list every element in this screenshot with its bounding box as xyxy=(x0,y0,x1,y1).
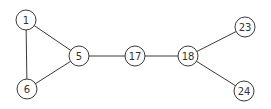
node-label: 6 xyxy=(24,84,30,95)
graph-nodes: 15617182324 xyxy=(16,10,255,101)
node-18: 18 xyxy=(178,46,198,66)
node-17: 17 xyxy=(125,46,145,66)
node-6: 6 xyxy=(17,79,37,99)
node-23: 23 xyxy=(235,17,255,37)
node-24: 24 xyxy=(234,81,254,101)
node-label: 5 xyxy=(76,51,82,62)
node-label: 24 xyxy=(238,86,251,97)
node-label: 18 xyxy=(182,51,195,62)
node-5: 5 xyxy=(69,46,89,66)
node-1: 1 xyxy=(16,10,36,30)
node-label: 17 xyxy=(129,51,142,62)
node-label: 23 xyxy=(239,22,252,33)
node-label: 1 xyxy=(23,15,29,26)
graph-diagram: 15617182324 xyxy=(0,0,271,109)
